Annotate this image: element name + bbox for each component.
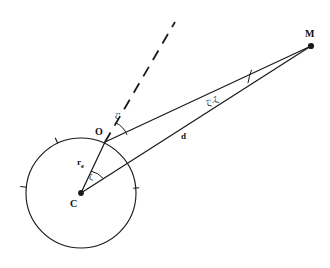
angle-arc-zeta-prime-minus-zeta	[248, 70, 251, 83]
label-radius-subscript: e	[81, 162, 84, 169]
circle-tick-left	[20, 187, 26, 188]
segment-O-to-M	[105, 46, 311, 142]
geometry-figure: C O M re d ζ' ζ ζ'-ζ	[0, 0, 330, 268]
point-dot-M	[308, 43, 314, 49]
point-label-M: M	[305, 29, 314, 39]
circle-tick-right	[133, 188, 139, 189]
label-angle-zeta: ζ	[89, 173, 93, 182]
angle-arc-zeta	[91, 171, 103, 178]
zenith-direction-dashed-ray	[105, 22, 175, 142]
label-angle-zeta-prime: ζ'	[115, 112, 120, 121]
diagram-canvas	[0, 0, 330, 268]
circle-tick-top	[55, 138, 58, 144]
label-radius-r-e: re	[77, 158, 84, 169]
point-dot-C	[78, 190, 84, 196]
label-distance-d: d	[181, 132, 186, 141]
point-label-O: O	[95, 127, 103, 137]
point-label-C: C	[70, 199, 77, 209]
